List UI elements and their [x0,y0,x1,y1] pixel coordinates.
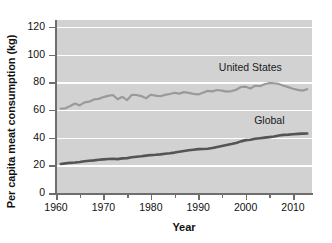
series-line-united-states [61,83,308,109]
y-tick-mark [49,193,55,195]
y-tick-label: 0 [5,186,45,198]
series-label-united-states: United States [219,61,282,73]
x-tick-mark [246,194,248,200]
x-tick-mark [56,194,58,200]
y-tick-mark [49,138,55,140]
y-tick-mark [49,82,55,84]
y-tick-label: 60 [5,103,45,115]
y-tick-label: 40 [5,131,45,143]
y-axis-title: Per capita meat consumption (kg) [0,0,22,243]
y-tick-label: 120 [5,20,45,32]
y-tick-label: 100 [5,48,45,60]
x-tick-mark-minor [222,194,224,198]
x-tick-label: 1980 [131,201,171,213]
y-axis-line [55,20,57,194]
x-tick-mark-minor [269,194,271,198]
plot-area: United StatesGlobal [56,20,312,193]
series-label-global: Global [254,114,284,126]
x-axis-title: Year [56,221,312,233]
series-line-global [61,133,308,163]
x-axis-line [55,193,313,195]
x-tick-mark-minor [127,194,129,198]
x-tick-mark-minor [175,194,177,198]
x-tick-label: 1990 [178,201,218,213]
x-tick-label: 1970 [83,201,123,213]
x-tick-mark [151,194,153,200]
y-tick-label: 20 [5,158,45,170]
y-tick-mark [49,27,55,29]
series-canvas [56,20,312,193]
y-tick-label: 80 [5,75,45,87]
y-tick-mark [49,165,55,167]
y-tick-mark [49,55,55,57]
y-tick-mark [49,110,55,112]
x-tick-mark [293,194,295,200]
x-tick-label: 2000 [226,201,266,213]
chart-figure: Per capita meat consumption (kg) United … [0,0,332,243]
x-tick-mark-minor [80,194,82,198]
x-tick-label: 2010 [273,201,313,213]
x-tick-mark [103,194,105,200]
x-tick-label: 1960 [36,201,76,213]
x-tick-mark [198,194,200,200]
